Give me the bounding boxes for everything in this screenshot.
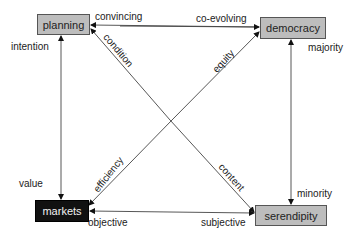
- node-markets: markets: [35, 200, 89, 222]
- edge-planning-serendipity: [170, 120, 254, 212]
- label-minority: minority: [297, 189, 332, 199]
- node-planning-label: planning: [43, 19, 85, 31]
- node-serendipity: serendipity: [255, 205, 327, 226]
- edge-markets-democracy: [172, 32, 259, 120]
- node-democracy-label: democracy: [266, 22, 320, 34]
- edge-planning-democracy-head: [120, 26, 259, 27]
- node-planning: planning: [37, 14, 90, 35]
- edge-serendipity-planning: [91, 29, 170, 120]
- label-majority: majority: [308, 43, 343, 53]
- label-value: value: [19, 179, 43, 189]
- label-co-evolving: co-evolving: [196, 14, 247, 24]
- label-intention: intention: [11, 42, 49, 52]
- node-markets-label: markets: [42, 205, 81, 217]
- label-objective: objective: [88, 218, 127, 228]
- edge-serendipity-markets: [90, 211, 170, 212]
- label-convincing: convincing: [95, 12, 142, 22]
- label-subjective: subjective: [201, 218, 245, 228]
- edge-markets-serendipity: [170, 212, 254, 213]
- node-serendipity-label: serendipity: [264, 210, 317, 222]
- edge-democracy-markets: [89, 120, 172, 205]
- node-democracy: democracy: [260, 17, 326, 39]
